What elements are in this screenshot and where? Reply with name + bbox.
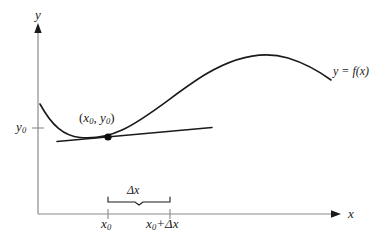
point-close-paren: ): [110, 110, 114, 125]
x0-axis-tick-label: x0: [101, 217, 111, 232]
figure-canvas: [0, 0, 392, 248]
x-axis-label: x: [348, 207, 354, 220]
x0-plus-delta-x-tick-label: x0+Δx: [146, 217, 178, 232]
x-axis-arrowhead-icon: [331, 210, 341, 217]
y0-axis-tick-label: y0: [16, 120, 26, 135]
y0-subscript: 0: [22, 125, 26, 135]
x0-base: x: [101, 216, 107, 231]
x0dx-base: x: [146, 216, 152, 231]
curve-equation-label: y = f(x): [333, 65, 369, 77]
point-y-base: y: [100, 110, 106, 125]
y0-base: y: [16, 119, 22, 134]
delta-x-bracket-path: [108, 197, 170, 205]
tangent-point-dot: [104, 133, 111, 140]
delta-x-bracket: [108, 197, 170, 205]
x0-subscript: 0: [107, 222, 111, 232]
tangent-line: [57, 128, 212, 142]
calculus-tangent-diagram: y x y0 (x0, y0) Δx x0 x0+Δx y = f(x): [0, 0, 392, 248]
y-axis-label: y: [35, 8, 41, 21]
x-axis: [38, 210, 341, 217]
y-axis: [34, 23, 41, 214]
y-axis-arrowhead-icon: [34, 23, 41, 33]
delta-x-label: Δx: [127, 184, 139, 196]
x0dx-rest: +Δx: [156, 216, 178, 231]
tangent-point-label: (x0, y0): [79, 111, 115, 126]
